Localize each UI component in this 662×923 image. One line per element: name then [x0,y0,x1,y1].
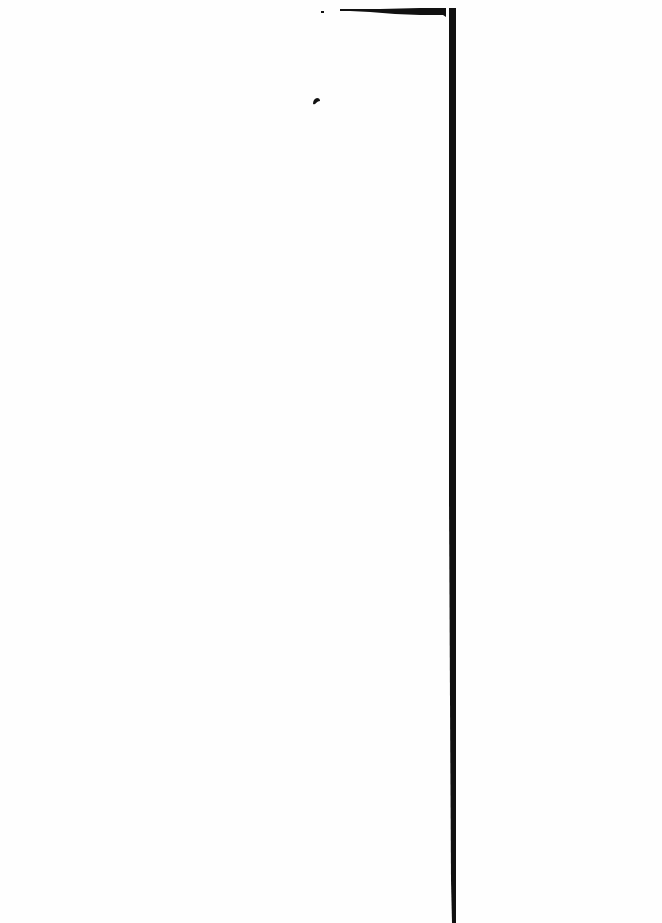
scan-marks [0,0,662,923]
vertical-rule [449,8,456,923]
top-horizontal-stroke [340,8,446,17]
scanned-page [0,0,662,923]
top-dash [321,11,324,13]
ink-blot [313,98,320,104]
